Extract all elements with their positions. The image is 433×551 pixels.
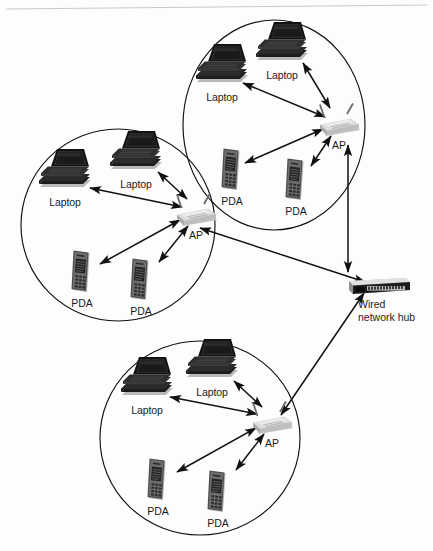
node-label: Laptop [196,386,228,398]
laptop-icon [256,22,308,60]
node-label: PDA [221,195,242,207]
node-label: PDA [207,517,228,529]
node-label: PDA [130,305,151,317]
node-label: AP [265,437,279,449]
node-label: Laptop [206,91,238,103]
node-label: PDA [71,297,92,309]
pda-icon [72,251,90,293]
link-ap-left-to-hub [200,228,365,282]
node-laptop-bottom-left[interactable]: Laptop [121,357,173,416]
page-scan-rule [6,5,427,9]
link-ap-bottom-laptop-left [170,397,257,414]
node-laptop-left-outer[interactable]: Laptop [39,149,91,208]
pda-icon [208,471,226,513]
node-label: AP [189,229,203,241]
node-label: PDA [147,505,168,517]
node-label: Laptop [131,404,163,416]
link-ap-top-laptop-top-left [243,83,325,117]
laptop-icon [186,339,238,377]
node-pda-bottom-right[interactable]: PDA [207,471,228,530]
laptop-icon [39,149,91,187]
node-label: AP [332,139,346,151]
link-ap-top-pda-top-right [311,136,331,166]
node-pda-left-lower-left[interactable]: PDA [71,251,92,310]
node-label: Laptop [266,69,298,81]
node-label: Laptop [49,196,81,208]
hub-label-line2: network hub [358,311,415,323]
node-wired-network-hub[interactable]: Wired network hub [349,278,415,323]
node-label: PDA [285,205,306,217]
node-pda-top-right[interactable]: PDA [285,159,306,218]
node-pda-left-lower-right[interactable]: PDA [130,259,151,318]
node-pda-top-left[interactable]: PDA [221,149,242,208]
link-ap-top-pda-top-left [245,129,323,163]
laptop-icon [110,131,162,169]
node-ap-bottom[interactable]: AP [253,402,293,450]
link-ap-bottom-pda-left [177,428,256,472]
node-laptop-top-right[interactable]: Laptop [256,22,308,81]
laptop-icon [121,357,173,395]
link-ap-left-laptop-inner [158,172,187,199]
link-ap-left-pda-lower-left [100,220,180,264]
node-laptop-left-inner[interactable]: Laptop [110,131,162,190]
link-ap-left-pda-lower-right [159,226,188,262]
pda-icon [148,459,166,501]
node-laptop-bottom-right[interactable]: Laptop [186,339,238,398]
link-ap-left-laptop-outer [90,188,182,207]
link-ap-top-laptop-top-right [303,63,330,108]
node-label: Laptop [120,178,152,190]
access-point-icon [320,104,360,137]
network-diagram: Laptop Laptop PDA PDA AP Laptop Laptop [0,0,433,551]
node-pda-bottom-left[interactable]: PDA [147,459,168,518]
pda-icon [222,149,240,191]
link-ap-bottom-to-hub [281,293,364,415]
laptop-icon [196,44,248,82]
hub-label-line1: Wired [358,298,386,310]
pda-icon [131,259,149,301]
pda-icon [286,159,304,201]
diagram-canvas: Laptop Laptop PDA PDA AP Laptop Laptop [0,0,433,551]
link-ap-bottom-laptop-right [234,381,262,407]
node-laptop-top-left[interactable]: Laptop [196,44,248,103]
link-ap-bottom-pda-right [236,434,264,470]
